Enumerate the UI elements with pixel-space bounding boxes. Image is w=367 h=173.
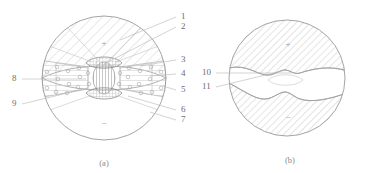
panel-b: + − 10 11 (b) xyxy=(202,16,347,165)
label-9: 9 xyxy=(12,98,17,108)
lower-electrode-region-b xyxy=(227,82,347,140)
label-10: 10 xyxy=(202,67,212,77)
leader-lines-b xyxy=(216,70,292,87)
label-3: 3 xyxy=(181,54,186,64)
technical-figure: + − 1 2 3 4 5 6 7 8 xyxy=(0,0,367,173)
label-5: 5 xyxy=(181,84,186,94)
caption-b: (b) xyxy=(285,155,295,165)
labels-right-a: 1 2 3 4 5 6 7 xyxy=(181,11,186,124)
label-8: 8 xyxy=(12,73,17,83)
panel-a: + − 1 2 3 4 5 6 7 8 xyxy=(12,11,186,168)
lower-anode-spot-a xyxy=(86,88,122,99)
label-4: 4 xyxy=(181,68,186,78)
upper-cathode-spot-a xyxy=(86,57,122,68)
polarity-bottom-b: − xyxy=(285,112,290,122)
polarity-top-b: + xyxy=(285,39,290,49)
figure-canvas: + − 1 2 3 4 5 6 7 8 xyxy=(0,0,367,173)
caption-a: (a) xyxy=(99,158,109,168)
label-1: 1 xyxy=(181,11,186,21)
polarity-bottom-a: − xyxy=(101,118,106,128)
label-6: 6 xyxy=(181,104,186,114)
label-2: 2 xyxy=(181,21,186,31)
labels-left-a: 8 9 xyxy=(12,73,17,108)
neck-lens-b xyxy=(268,75,303,86)
label-11: 11 xyxy=(202,81,211,91)
polarity-top-a: + xyxy=(101,38,106,48)
label-7: 7 xyxy=(181,114,186,124)
